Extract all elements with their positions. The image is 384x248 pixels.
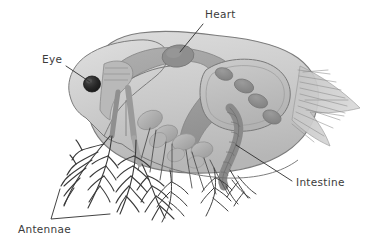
leader-antennae bbox=[51, 189, 110, 219]
label-antennae: Antennae bbox=[18, 223, 71, 235]
daphnia-anatomy-illustration: Heart Eye Intestine Antennae bbox=[0, 0, 384, 248]
compound-eye bbox=[84, 76, 101, 92]
antenna-branch-right-outer bbox=[157, 170, 188, 222]
antenna-branch-left bbox=[61, 136, 110, 206]
label-intestine: Intestine bbox=[296, 176, 345, 188]
label-eye: Eye bbox=[42, 53, 62, 65]
eye-spot bbox=[84, 76, 101, 92]
diagram-canvas: Heart Eye Intestine Antennae bbox=[0, 0, 384, 248]
label-heart: Heart bbox=[205, 8, 236, 20]
brood-chamber bbox=[200, 59, 290, 131]
antenna-branch-mid bbox=[137, 164, 174, 220]
